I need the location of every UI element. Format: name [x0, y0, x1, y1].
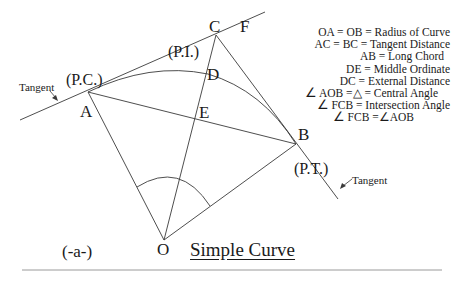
long-chord-ab — [88, 92, 296, 144]
legend: OA = OB = Radius of Curve AC = BC = Tang… — [290, 26, 450, 124]
radius-oa — [88, 92, 164, 240]
figure-label: (-a-) — [62, 243, 92, 260]
pi-label: (P.I.) — [168, 44, 199, 60]
point-b-label: B — [298, 126, 309, 143]
left-tangent-label: Tangent — [19, 82, 54, 93]
diagram-title: Simple Curve — [190, 240, 295, 259]
angle-icon: ∠ — [305, 85, 317, 100]
back-tangent-line — [20, 12, 265, 120]
right-tangent-label: Tangent — [352, 175, 387, 186]
point-o-label: O — [157, 241, 169, 258]
point-d-label: D — [207, 66, 219, 83]
circular-curve — [88, 71, 296, 144]
angle-icon: ∠ — [333, 109, 345, 124]
radius-ob — [164, 144, 296, 240]
legend-row-radius: OA = OB = Radius of Curve — [290, 26, 450, 38]
point-a-label: A — [80, 103, 92, 120]
pc-label: (P.C.) — [66, 72, 102, 88]
simple-curve-diagram: A C F D E B O (P.C.) (P.I.) (P.T.) Tange… — [0, 0, 456, 286]
pt-label: (P.T.) — [294, 161, 328, 177]
legend-row-central-angle: ∠ AOB =△ = Central Angle — [290, 87, 450, 99]
legend-row-middle-ordinate: DE = Middle Ordinate — [290, 63, 450, 75]
legend-row-tangent-distance: AC = BC = Tangent Distance — [290, 38, 450, 50]
point-e-label: E — [199, 104, 209, 121]
left-tangent-arrowhead — [52, 95, 58, 101]
point-f-label: F — [240, 18, 249, 35]
legend-row-long-chord: AB = Long Chord — [290, 50, 450, 62]
angle-icon: ∠ — [317, 97, 329, 112]
legend-row-intersection-angle: ∠ FCB = Intersection Angle — [290, 99, 450, 111]
legend-row-angle-equality: ∠ FCB =∠AOB — [290, 111, 450, 123]
point-c-label: C — [209, 18, 220, 35]
